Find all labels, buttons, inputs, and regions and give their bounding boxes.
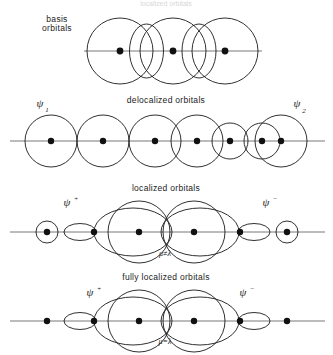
panel-delocalized-title: delocalized orbitals [127, 95, 205, 105]
localized-annotation: μ≠λ [158, 249, 171, 258]
atom-center-dot [100, 138, 106, 144]
psi-2-subscript: 2 [302, 107, 306, 115]
atom-center-dot [170, 48, 177, 55]
atom-center-dot [136, 229, 142, 235]
atom-center-dot [152, 138, 158, 144]
fully-localized-annotation: μ=λ [158, 337, 172, 346]
atom-center-dot [117, 48, 124, 55]
atom-center-dot [237, 229, 243, 235]
psi-minus-superscript: − [250, 285, 255, 293]
atom-center-dot [194, 138, 200, 144]
panel-localized-title: localized orbitals [132, 183, 200, 193]
atom-center-dot [91, 229, 97, 235]
top-cut-text: localized orbitals [140, 0, 192, 7]
psi-minus-symbol: ψ [240, 286, 247, 298]
panel-basis: basis orbitals [42, 14, 262, 84]
panel-basis-title-line2: orbitals [42, 23, 72, 33]
psi-minus-superscript: − [273, 195, 278, 203]
figure-canvas: localized orbitals basis orbitals deloca… [0, 0, 333, 355]
psi-2-symbol: ψ [294, 97, 301, 109]
atom-center-dot [259, 138, 265, 144]
atom-center-dot [222, 48, 229, 55]
atom-center-dot [284, 229, 290, 235]
atom-center-dot [237, 318, 243, 324]
panel-fully-localized-title: fully localized orbitals [122, 272, 210, 282]
panel-delocalized: delocalized orbitals ψ 1 ψ 2 [10, 95, 325, 167]
psi-plus-symbol: ψ [87, 286, 94, 298]
atom-center-dot [136, 318, 142, 324]
panel-localized: localized orbitals ψ + ψ − μ≠λ [10, 183, 325, 263]
psi-plus-superscript: + [97, 285, 102, 293]
psi-minus-symbol: ψ [263, 196, 270, 208]
psi-1-symbol: ψ [37, 97, 44, 109]
psi-plus-symbol: ψ [64, 196, 71, 208]
psi-plus-superscript: + [74, 195, 79, 203]
atom-center-dot [227, 138, 233, 144]
atom-center-dot [91, 318, 97, 324]
atom-center-dot [44, 318, 50, 324]
atom-center-dot [48, 138, 54, 144]
atom-center-dot [278, 138, 284, 144]
atom-center-dot [191, 229, 197, 235]
orbital-diagram: localized orbitals basis orbitals deloca… [0, 0, 333, 355]
atom-center-dot [44, 229, 50, 235]
panel-fully-localized: fully localized orbitals ψ + ψ − μ=λ [10, 272, 325, 352]
psi-1-subscript: 1 [45, 106, 49, 114]
atom-center-dot [284, 318, 290, 324]
atom-center-dot [191, 318, 197, 324]
